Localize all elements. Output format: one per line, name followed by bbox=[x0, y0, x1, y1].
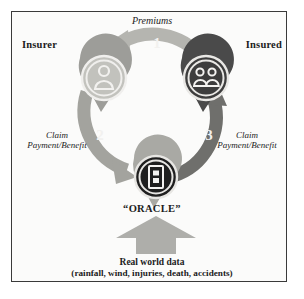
real-world-data-caption: Real world data (rainfall, wind, injurie… bbox=[0, 257, 304, 279]
real-world-data-arrow bbox=[116, 216, 196, 254]
node-insured[interactable] bbox=[181, 34, 234, 112]
flow-3-label-line2: Payment/Benefit bbox=[202, 140, 292, 150]
flow-1-label-premiums: Premiums bbox=[0, 15, 304, 27]
diagram-page: 1 2 3 bbox=[0, 0, 304, 299]
node-oracle[interactable] bbox=[133, 135, 182, 208]
node-label-insured: Insured bbox=[246, 39, 282, 51]
flow-2-label-line2: Payment/Benefit bbox=[14, 140, 100, 150]
flow-3-label-claim-payment: Claim Payment/Benefit bbox=[202, 130, 292, 151]
flow-2-label-claim-payment: Claim Payment/Benefit bbox=[14, 130, 100, 151]
flow-3-label-line1: Claim bbox=[202, 130, 292, 140]
flow-1-number: 1 bbox=[153, 35, 161, 51]
real-world-data-line1: Real world data bbox=[0, 257, 304, 268]
real-world-data-line2: (rainfall, wind, injuries, death, accide… bbox=[0, 268, 304, 279]
diagram-stage: 1 2 3 bbox=[0, 0, 304, 299]
node-label-insurer: Insurer bbox=[22, 39, 57, 51]
node-label-oracle: “ORACLE” bbox=[0, 203, 304, 215]
flow-2-label-line1: Claim bbox=[14, 130, 100, 140]
